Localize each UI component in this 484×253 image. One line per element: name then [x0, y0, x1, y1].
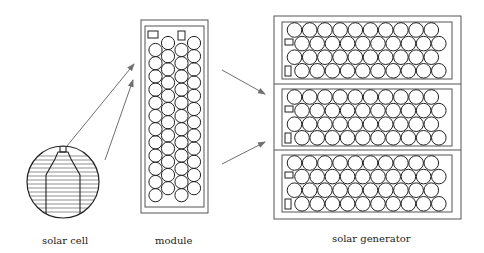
- cell-circle: [187, 155, 200, 168]
- cell-circle: [348, 117, 363, 132]
- cell-circle: [416, 169, 431, 184]
- cell-circle: [394, 117, 409, 132]
- cell-circle: [175, 162, 188, 175]
- cell-circle: [363, 50, 378, 65]
- cell-circle: [287, 50, 302, 65]
- cell-circle: [363, 23, 378, 38]
- cell-circle: [378, 23, 393, 38]
- cell-circle: [161, 102, 174, 115]
- cell-circle: [378, 156, 393, 171]
- cell-circle: [149, 123, 162, 136]
- cell-circle: [432, 103, 447, 118]
- cell-circle: [333, 183, 348, 198]
- cell-circle: [318, 183, 333, 198]
- cell-circle: [287, 117, 302, 132]
- cell-circle: [386, 64, 401, 79]
- cell-circle: [348, 23, 363, 38]
- cell-circle: [302, 117, 317, 132]
- cell-circle: [386, 197, 401, 212]
- cell-circle: [348, 156, 363, 171]
- cell-circle: [149, 96, 162, 109]
- cell-circle: [371, 103, 386, 118]
- cell-circle: [318, 117, 333, 132]
- cell-circle: [325, 131, 340, 146]
- cell-circle: [416, 131, 431, 146]
- cell-circle: [401, 131, 416, 146]
- cell-circle: [416, 36, 431, 51]
- cell-circle: [187, 168, 200, 181]
- solar-generator-icon: [274, 16, 461, 219]
- cell-circle: [371, 169, 386, 184]
- cell-circle: [295, 131, 310, 146]
- cell-circle: [371, 36, 386, 51]
- cell-circle: [295, 103, 310, 118]
- cell-circle: [149, 149, 162, 162]
- cell-circle: [161, 50, 174, 63]
- arrow-icon: [222, 142, 265, 164]
- cell-circle: [149, 70, 162, 83]
- cell-circle: [424, 156, 439, 171]
- cell-circle: [371, 64, 386, 79]
- cell-circle: [175, 189, 188, 202]
- cell-circle: [356, 36, 371, 51]
- cell-circle: [295, 197, 310, 212]
- cell-circle: [287, 156, 302, 171]
- cell-circle: [175, 57, 188, 70]
- cell-circle: [187, 142, 200, 155]
- cell-circle: [356, 169, 371, 184]
- cell-circle: [432, 131, 447, 146]
- cell-circle: [161, 116, 174, 129]
- cell-circle: [333, 156, 348, 171]
- cell-circle: [149, 189, 162, 202]
- cell-circle: [416, 103, 431, 118]
- cell-circle: [187, 63, 200, 76]
- cell-circle: [386, 36, 401, 51]
- cell-circle: [161, 36, 174, 49]
- cell-circle: [187, 36, 200, 49]
- cell-circle: [432, 64, 447, 79]
- cell-circle: [432, 169, 447, 184]
- cell-circle: [175, 96, 188, 109]
- cell-circle: [340, 103, 355, 118]
- cell-circle: [318, 90, 333, 105]
- cell-circle: [187, 102, 200, 115]
- cell-circle: [416, 64, 431, 79]
- cell-circle: [378, 50, 393, 65]
- cell-circle: [318, 50, 333, 65]
- cell-circle: [386, 169, 401, 184]
- cell-circle: [161, 89, 174, 102]
- cell-circle: [401, 103, 416, 118]
- cell-circle: [340, 64, 355, 79]
- cell-circle: [394, 156, 409, 171]
- cell-circle: [363, 117, 378, 132]
- cell-circle: [187, 89, 200, 102]
- cell-circle: [371, 197, 386, 212]
- cell-circle: [432, 36, 447, 51]
- cell-circle: [175, 175, 188, 188]
- cell-circle: [287, 23, 302, 38]
- cell-circle: [394, 23, 409, 38]
- cell-circle: [409, 117, 424, 132]
- cell-circle: [310, 103, 325, 118]
- cell-circle: [302, 90, 317, 105]
- cell-circle: [149, 162, 162, 175]
- cell-circle: [187, 116, 200, 129]
- cell-circle: [187, 129, 200, 142]
- cell-circle: [302, 156, 317, 171]
- cell-circle: [149, 57, 162, 70]
- cell-circle: [340, 131, 355, 146]
- cell-circle: [432, 197, 447, 212]
- cell-circle: [348, 50, 363, 65]
- cell-circle: [356, 64, 371, 79]
- cell-circle: [333, 23, 348, 38]
- cell-circle: [149, 83, 162, 96]
- cell-circle: [356, 131, 371, 146]
- module-icon: [141, 20, 208, 213]
- cell-circle: [386, 103, 401, 118]
- cell-circle: [161, 63, 174, 76]
- arrow-icon: [105, 80, 133, 160]
- cell-circle: [295, 169, 310, 184]
- cell-circle: [149, 136, 162, 149]
- cell-circle: [424, 23, 439, 38]
- cell-circle: [333, 90, 348, 105]
